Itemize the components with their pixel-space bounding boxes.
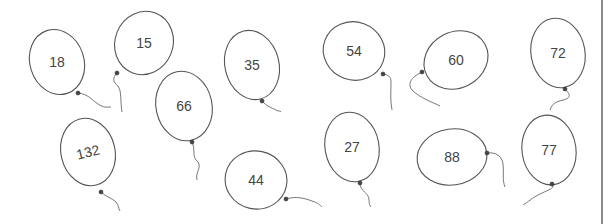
balloon-knot-icon xyxy=(76,91,80,95)
balloon-knot-icon xyxy=(420,70,424,74)
balloon-string xyxy=(286,198,322,207)
balloon-number-label: 18 xyxy=(49,54,65,70)
balloon-number-label: 72 xyxy=(550,45,566,61)
balloon-knot-icon xyxy=(190,140,194,144)
balloon-string xyxy=(523,184,553,205)
balloon-number-label: 35 xyxy=(244,57,260,73)
balloon-number-label: 77 xyxy=(541,142,557,158)
balloon-knot-icon xyxy=(550,182,554,186)
balloon-group: 1815663554607213244278877 xyxy=(21,2,591,214)
balloon-number-label: 27 xyxy=(344,139,360,155)
balloon: 60 xyxy=(410,20,498,106)
balloon-knot-icon xyxy=(115,71,119,75)
balloon: 132 xyxy=(54,112,123,211)
balloon: 35 xyxy=(217,25,286,112)
balloon-knot-icon xyxy=(563,87,567,91)
balloon-number-label: 88 xyxy=(444,149,460,165)
balloon-string xyxy=(487,153,505,187)
balloon-number-label: 15 xyxy=(136,35,152,51)
balloon: 77 xyxy=(517,112,580,205)
balloon-number-label: 60 xyxy=(448,52,464,68)
balloon-string xyxy=(550,89,569,110)
balloon-number-label: 44 xyxy=(248,172,264,188)
balloon: 72 xyxy=(525,14,590,110)
balloon: 27 xyxy=(319,108,384,207)
balloon-knot-icon xyxy=(99,190,103,194)
balloon: 66 xyxy=(149,66,218,180)
balloon-number-label: 132 xyxy=(75,141,102,162)
balloon-string xyxy=(78,93,111,107)
balloon-string xyxy=(383,74,392,110)
balloon-number-label: 66 xyxy=(176,98,192,114)
balloon-string xyxy=(192,142,199,180)
balloon-knot-icon xyxy=(381,72,385,76)
balloon-string xyxy=(410,72,440,106)
balloon-string xyxy=(101,192,120,211)
balloon-knot-icon xyxy=(260,99,264,103)
right-border-divider xyxy=(601,0,603,224)
balloon: 88 xyxy=(413,124,505,189)
balloon: 54 xyxy=(315,13,393,110)
balloon: 44 xyxy=(220,145,322,215)
balloon: 15 xyxy=(105,2,183,112)
balloon-knot-icon xyxy=(284,197,288,201)
balloon-canvas: 1815663554607213244278877 xyxy=(0,0,608,224)
balloon-string xyxy=(262,101,281,112)
balloon: 18 xyxy=(21,22,111,107)
balloon-string xyxy=(360,183,371,207)
balloon-knot-icon xyxy=(485,151,489,155)
balloon-string xyxy=(114,73,122,112)
balloon-knot-icon xyxy=(358,181,362,185)
balloon-number-label: 54 xyxy=(346,43,362,59)
